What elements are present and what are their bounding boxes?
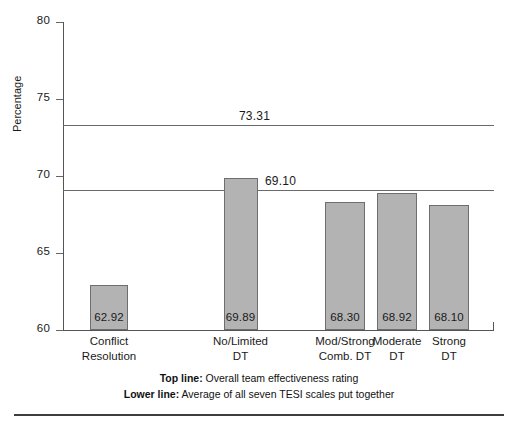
bar-mod-strong-comb-dt: 68.30: [325, 202, 365, 330]
bar-strong-dt: 68.10: [429, 205, 469, 330]
bar-moderate-dt: 68.92: [377, 193, 417, 330]
y-tick-mark-65: [56, 253, 63, 254]
y-tick-label-65: 65: [0, 245, 50, 257]
x-category-label-strong-dt: Strong DT: [394, 334, 504, 363]
bar-value-label: 68.30: [326, 311, 364, 323]
y-tick-mark-80: [56, 22, 63, 23]
y-axis-line: [63, 22, 64, 331]
y-tick-label-60: 60: [0, 322, 50, 334]
bottom-divider: [14, 414, 504, 416]
reference-line-lower-label: 69.10: [265, 174, 296, 188]
footnote-top-line-text: Overall team effectiveness rating: [203, 372, 359, 384]
footnote-top-line-label: Top line:: [160, 372, 203, 384]
y-tick-label-75: 75: [0, 91, 50, 103]
bar-chart-figure: Percentage 80 75 70 65 60 73.31 69.10 62…: [0, 0, 518, 428]
x-category-label-conflict-resolution: Conflict Resolution: [54, 334, 164, 363]
bar-value-label: 62.92: [91, 311, 127, 323]
reference-line-lower: [63, 190, 494, 191]
footnote-top-line: Top line: Overall team effectiveness rat…: [0, 372, 518, 384]
bar-value-label: 68.10: [430, 311, 468, 323]
bar-value-label: 68.92: [378, 311, 416, 323]
y-tick-mark-75: [56, 99, 63, 100]
reference-line-top: [63, 125, 494, 126]
footnote-lower-line-text: Average of all seven TESI scales put tog…: [179, 388, 394, 400]
bar-no-limited-dt: 69.89: [224, 178, 258, 330]
x-category-line-1: No/Limited: [186, 334, 296, 349]
reference-line-top-label: 73.31: [239, 109, 270, 123]
x-category-line-2: DT: [394, 349, 504, 364]
x-category-line-2: DT: [186, 349, 296, 364]
x-axis-end-tick: [493, 322, 494, 331]
y-tick-label-80: 80: [0, 14, 50, 26]
bar-conflict-resolution: 62.92: [90, 285, 128, 330]
x-category-label-no-limited-dt: No/Limited DT: [186, 334, 296, 363]
footnote-lower-line: Lower line: Average of all seven TESI sc…: [0, 388, 518, 400]
x-category-line-1: Conflict: [54, 334, 164, 349]
x-axis-line: [63, 330, 494, 331]
x-category-line-2: Resolution: [54, 349, 164, 364]
y-tick-label-70: 70: [0, 168, 50, 180]
footnote-lower-line-label: Lower line:: [124, 388, 179, 400]
y-tick-mark-60: [56, 330, 63, 331]
bar-value-label: 69.89: [225, 311, 257, 323]
x-category-line-1: Strong: [394, 334, 504, 349]
y-axis-title: Percentage: [11, 76, 23, 132]
y-tick-mark-70: [56, 176, 63, 177]
